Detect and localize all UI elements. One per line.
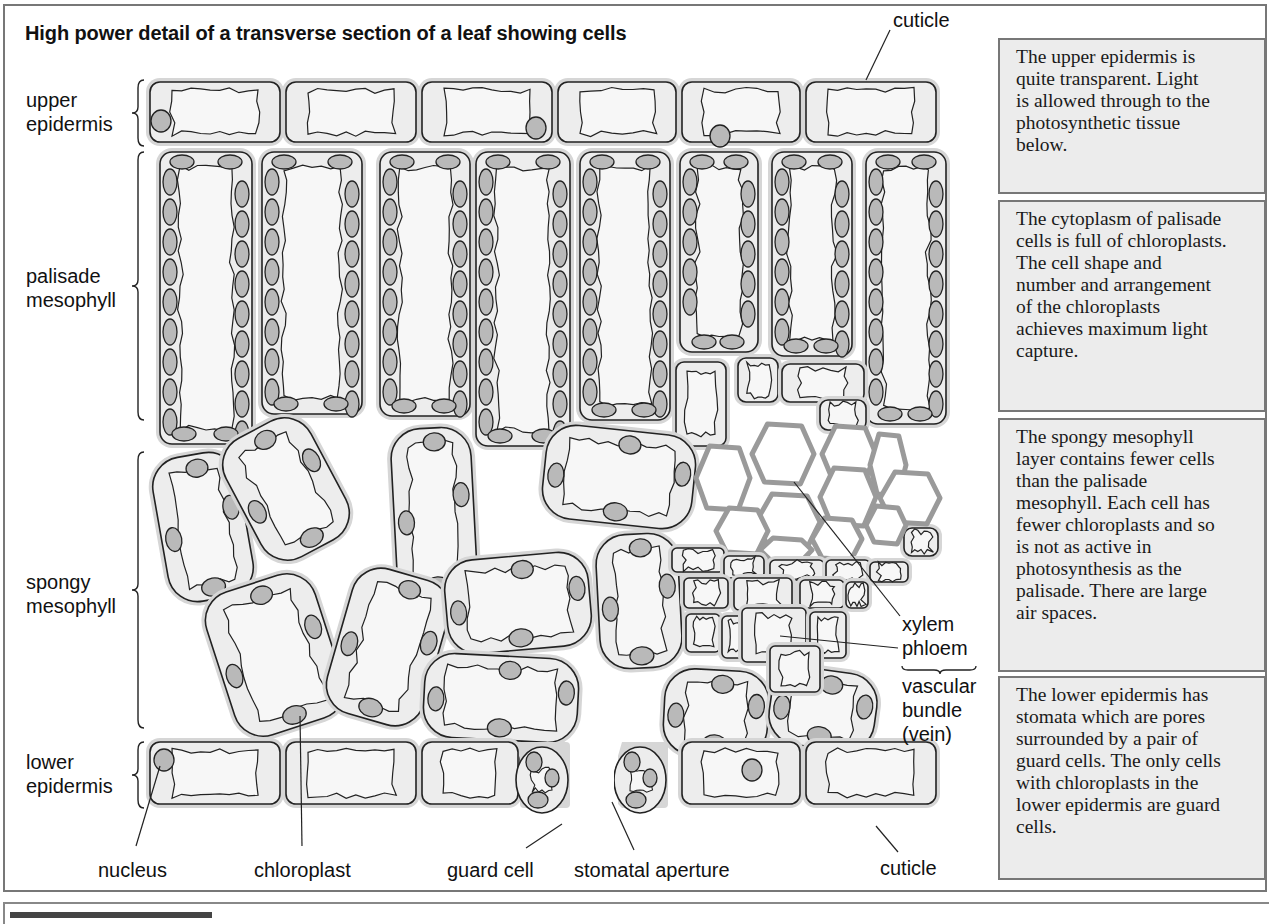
chloroplast-icon — [653, 271, 667, 297]
label-line: bundle — [902, 698, 976, 722]
chloroplast-icon — [748, 694, 765, 719]
chloroplast-icon — [383, 169, 397, 195]
note-line: capture. — [1016, 340, 1254, 362]
phloem-cell — [668, 544, 728, 576]
chloroplast-icon — [345, 301, 359, 327]
chloroplast-icon — [814, 339, 838, 353]
chloroplast-icon — [398, 511, 415, 536]
chloroplast-icon — [929, 241, 943, 267]
note-upper-epidermis: The upper epidermis is quite transparent… — [998, 38, 1266, 194]
label-cuticle-top: cuticle — [893, 8, 950, 32]
vacuole — [172, 748, 258, 798]
vacuole — [701, 748, 779, 797]
chloroplast-icon — [324, 397, 348, 411]
chloroplast-icon — [345, 331, 359, 357]
vacuole — [444, 88, 532, 136]
note-line: is allowed through to the — [1016, 90, 1254, 112]
chloroplast-icon — [869, 379, 883, 405]
leader-line-cuticle-top — [866, 30, 890, 80]
note-line: photosynthetic tissue — [1016, 112, 1254, 134]
chloroplast-icon — [711, 675, 734, 694]
note-line: The lower epidermis has — [1016, 684, 1254, 706]
chloroplast-icon — [659, 574, 676, 599]
phloem-cell — [766, 642, 824, 696]
chloroplast-icon — [929, 301, 943, 327]
chloroplast-icon — [526, 752, 542, 772]
chloroplast-icon — [553, 391, 567, 417]
label-phloem: phloem — [902, 636, 968, 660]
brace-icon — [132, 742, 144, 808]
note-spongy-mesophyll: The spongy mesophyll layer contains fewe… — [998, 418, 1266, 672]
chloroplast-icon — [683, 229, 697, 255]
chloroplast-icon — [629, 538, 652, 557]
chloroplast-icon — [869, 169, 883, 195]
chloroplast-icon — [163, 199, 177, 225]
chloroplast-icon — [392, 399, 416, 413]
label-stomatal-aperture: stomatal aperture — [574, 858, 730, 882]
chloroplast-icon — [653, 211, 667, 237]
palisade-cell — [376, 148, 474, 420]
lower-epidermis-cell — [282, 738, 420, 808]
chloroplast-icon — [235, 331, 249, 357]
chloroplast-icon — [835, 271, 849, 297]
vacuole — [828, 401, 858, 427]
label-line: mesophyll — [26, 288, 116, 312]
chloroplast-icon — [775, 259, 789, 285]
chloroplast-icon — [423, 432, 446, 451]
vacuole — [798, 367, 848, 399]
palisade-cell — [258, 148, 366, 418]
chloroplast-icon — [653, 361, 667, 387]
note-line: The upper epidermis is — [1016, 46, 1254, 68]
chloroplast-icon — [328, 155, 352, 169]
chloroplast-icon — [453, 211, 467, 237]
chloroplast-icon — [869, 349, 883, 375]
chloroplast-icon — [553, 361, 567, 387]
chloroplast-icon — [683, 289, 697, 315]
note-line: than the palisade — [1016, 470, 1254, 492]
vacuole — [307, 88, 395, 136]
note-lower-epidermis: The lower epidermis has stomata which ar… — [998, 676, 1266, 880]
chloroplast-icon — [453, 361, 467, 387]
brace-icon — [132, 452, 144, 728]
chloroplast-icon — [235, 361, 249, 387]
chloroplast-icon — [683, 199, 697, 225]
vacuole — [494, 165, 551, 433]
palisade-cell — [862, 148, 950, 428]
chloroplast-icon — [274, 397, 298, 411]
chloroplast-icon — [775, 229, 789, 255]
palisade-cell — [576, 148, 674, 424]
chloroplast-icon — [583, 229, 597, 255]
note-line: air spaces. — [1016, 602, 1254, 624]
lower-epidermis-cell — [802, 738, 940, 808]
chloroplast-icon — [163, 319, 177, 345]
chloroplast-icon — [583, 169, 597, 195]
label-xylem: xylem — [902, 612, 954, 636]
chloroplast-icon — [383, 319, 397, 345]
note-line: photosynthesis as the — [1016, 558, 1254, 580]
chloroplast-icon — [163, 289, 177, 315]
chloroplast-icon — [479, 289, 493, 315]
chloroplast-icon — [742, 759, 762, 781]
chloroplast-icon — [558, 681, 575, 706]
vacuole — [611, 546, 667, 656]
note-line: surrounded by a pair of — [1016, 728, 1254, 750]
chloroplast-icon — [592, 403, 616, 417]
note-line: achieves maximum light — [1016, 318, 1254, 340]
chloroplast-icon — [265, 349, 279, 375]
chloroplast-icon — [869, 229, 883, 255]
note-line: with chloroplasts in the — [1016, 772, 1254, 794]
chloroplast-icon — [151, 110, 171, 132]
chloroplast-icon — [499, 661, 522, 680]
vacuole — [397, 166, 453, 403]
chloroplast-icon — [163, 379, 177, 405]
label-upper-epidermis: upper epidermis — [26, 88, 113, 136]
leaf-cross-section-diagram — [0, 0, 1000, 918]
chloroplast-icon — [345, 211, 359, 237]
note-palisade-mesophyll: The cytoplasm of palisade cells is full … — [998, 200, 1266, 412]
chloroplast-icon — [775, 199, 789, 225]
chloroplast-icon — [383, 349, 397, 375]
chloroplast-icon — [583, 349, 597, 375]
chloroplast-icon — [653, 331, 667, 357]
chloroplast-icon — [583, 379, 597, 405]
chloroplast-icon — [553, 211, 567, 237]
